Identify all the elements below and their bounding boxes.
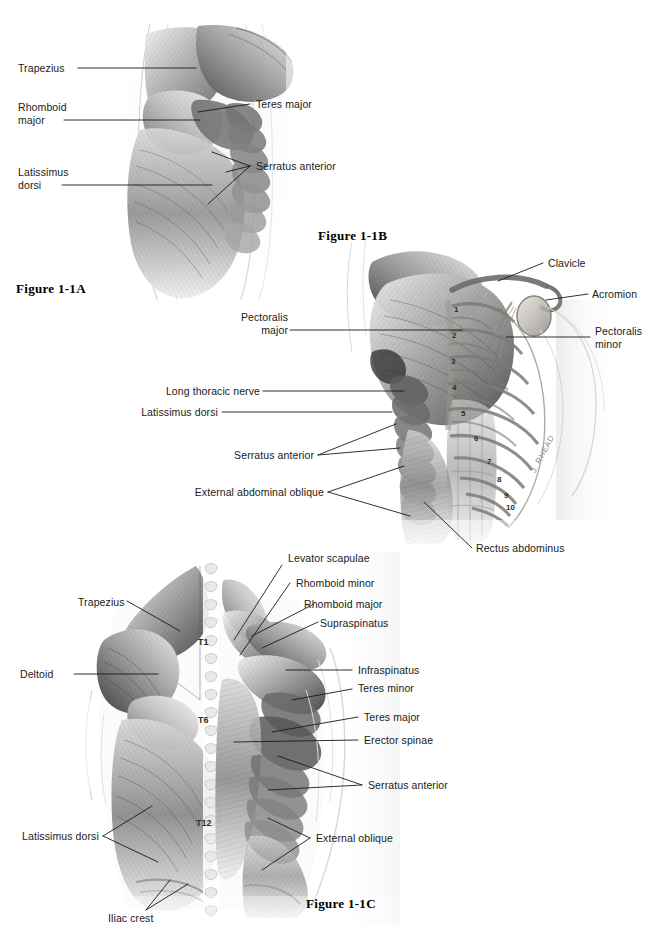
label-pectoralis-major-b: Pectoralis major [178, 311, 288, 336]
vertebra-label-t6: T6 [198, 715, 209, 725]
serratus-digitations-a [225, 103, 270, 253]
figure-1-1a-drawing [102, 10, 322, 302]
rib-number-5: 5 [461, 409, 465, 418]
label-latissimus-dorsi-a: Latissimus dorsi [18, 166, 69, 191]
figure-title-1-1a: Figure 1-1A [16, 281, 86, 297]
label-infraspinatus-c: Infraspinatus [358, 664, 419, 677]
label-clavicle-b: Clavicle [548, 257, 586, 270]
rib-number-4: 4 [452, 383, 456, 392]
rib-number-3: 3 [451, 357, 455, 366]
label-external-abdominal-oblique-b: External abdominal oblique [178, 486, 324, 499]
figure-title-1-1c: Figure 1-1C [306, 896, 376, 912]
label-external-oblique-c: External oblique [316, 832, 393, 845]
serratus-digitations-b [390, 376, 436, 525]
label-supraspinatus-c: Supraspinatus [320, 617, 388, 630]
rib-number-9: 9 [504, 491, 508, 500]
leader-lines-figure-a [62, 68, 250, 204]
label-serratus-anterior-a: Serratus anterior [256, 160, 336, 173]
anatomy-plate: Trapezius Rhomboid major Latissimus dors… [0, 0, 657, 930]
rib-number-1: 1 [454, 305, 458, 314]
leader-lines-figure-c [74, 565, 362, 910]
label-serratus-anterior-c: Serratus anterior [368, 779, 448, 792]
figure-1-1b-drawing [300, 235, 622, 546]
label-rhomboid-major-a: Rhomboid major [18, 101, 67, 126]
rib-number-10: 10 [506, 503, 515, 512]
label-serratus-anterior-b: Serratus anterior [208, 449, 314, 462]
label-iliac-crest-c: Iliac crest [108, 912, 153, 925]
label-trapezius-a: Trapezius [18, 62, 65, 75]
rib-number-7: 7 [487, 457, 491, 466]
label-rectus-abdominus-b: Rectus abdominus [476, 542, 565, 555]
artist-signature: J. RHEAD [529, 434, 556, 475]
label-teres-major-c: Teres major [364, 711, 420, 724]
anatomical-artwork [0, 0, 657, 930]
label-teres-minor-c: Teres minor [358, 682, 414, 695]
label-rhomboid-major-c: Rhomboid major [304, 598, 382, 611]
vertebra-label-t1: T1 [198, 637, 209, 647]
rib-number-2: 2 [452, 331, 456, 340]
label-deltoid-c: Deltoid [20, 668, 53, 681]
label-latissimus-dorsi-c: Latissimus dorsi [22, 830, 99, 843]
leader-lines-figure-b [222, 263, 590, 548]
spinal-column [203, 556, 219, 916]
label-trapezius-c: Trapezius [78, 596, 125, 609]
label-levator-scapulae-c: Levator scapulae [288, 552, 370, 565]
label-erector-spinae-c: Erector spinae [364, 734, 433, 747]
serratus-digitations-c [244, 754, 309, 863]
figure-title-1-1b: Figure 1-1B [318, 228, 387, 244]
label-latissimus-dorsi-b: Latissimus dorsi [108, 406, 218, 419]
label-pectoralis-minor-b: Pectoralis minor [595, 325, 642, 350]
vertebra-label-t12: T12 [196, 818, 212, 828]
rib-number-8: 8 [497, 475, 501, 484]
label-long-thoracic-nerve-b: Long thoracic nerve [148, 385, 260, 398]
label-rhomboid-minor-c: Rhomboid minor [296, 577, 374, 590]
rib-number-6: 6 [474, 434, 478, 443]
label-acromion-b: Acromion [592, 288, 637, 301]
label-teres-major-a: Teres major [256, 98, 312, 111]
